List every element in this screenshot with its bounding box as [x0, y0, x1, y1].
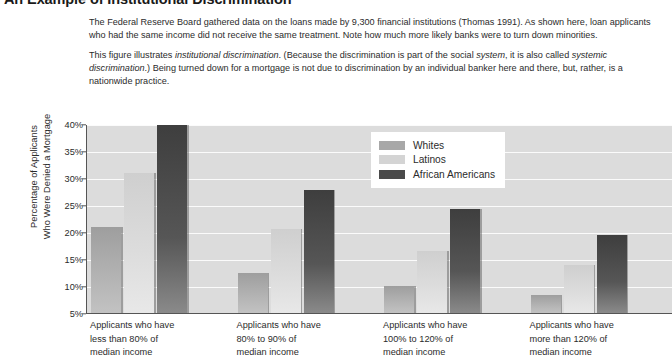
bar — [238, 273, 268, 314]
caption-text: .) Being turned down for a mortgage is n… — [89, 63, 623, 86]
bar — [91, 227, 121, 313]
x-axis-group-label: Applicants who haveless than 80% ofmedia… — [90, 319, 229, 360]
bar-chart: Percentage of ApplicantsWho Were Denied … — [0, 114, 672, 360]
bar-edge — [154, 173, 156, 313]
figure-caption: The Federal Reserve Board gathered data … — [89, 16, 667, 95]
legend-item: Whites — [379, 138, 495, 153]
figure-page: An Example of Institutional Discriminati… — [0, 0, 672, 360]
emphasized-term: institutional discrimination — [175, 50, 279, 60]
bar — [564, 265, 594, 313]
caption-text: The Federal Reserve Board gathered data … — [89, 17, 651, 40]
caption-paragraph: This figure illustrates institutional di… — [89, 49, 667, 88]
caption-text: This figure illustrates — [89, 50, 175, 60]
legend-label: Whites — [413, 140, 444, 151]
x-axis-group-label-line: more than 120% of — [530, 333, 669, 347]
caption-paragraph: The Federal Reserve Board gathered data … — [89, 16, 667, 42]
bar-edge — [187, 125, 189, 313]
bar — [450, 209, 480, 313]
caption-text: . (Because the discrimination is part of… — [279, 50, 477, 60]
title-divider — [0, 8, 672, 9]
bar-edge — [480, 209, 482, 313]
emphasized-term: system — [476, 50, 505, 60]
legend-label: African Americans — [413, 169, 495, 180]
y-axis-tick-label: 10% — [39, 282, 83, 292]
y-axis-tick-label: 35% — [39, 147, 83, 157]
x-axis-group-label: Applicants who have100% to 120% ofmedian… — [383, 319, 522, 360]
x-axis-group-label-line: Applicants who have — [383, 319, 522, 333]
legend-item: Latinos — [379, 153, 495, 168]
x-axis-group-label-line: Applicants who have — [237, 319, 376, 333]
legend-item: African Americans — [379, 167, 495, 182]
x-axis-group-label: Applicants who havemore than 120% ofmedi… — [530, 319, 669, 360]
bar — [597, 235, 627, 313]
x-axis-group-label-line: 80% to 90% of — [237, 333, 376, 347]
bar-edge — [334, 190, 336, 313]
x-axis-group-label: Applicants who have80% to 90% ofmedian i… — [237, 319, 376, 360]
bar — [417, 251, 447, 313]
legend-swatch — [379, 155, 405, 164]
bar — [384, 286, 414, 313]
y-axis-tick-label: 15% — [39, 255, 83, 265]
bar-edge — [627, 235, 629, 313]
x-axis-group-label-line: 100% to 120% of — [383, 333, 522, 347]
bar-edge — [121, 227, 123, 313]
x-axis-group-label-line: median income — [530, 346, 669, 360]
bar — [157, 125, 187, 313]
y-axis-tick-label: 40% — [39, 120, 83, 130]
bar — [271, 229, 301, 313]
y-axis-tick-label: 30% — [39, 174, 83, 184]
x-axis-group-label-line: median income — [237, 346, 376, 360]
bar-edge — [447, 251, 449, 313]
y-axis-tick-label: 25% — [39, 201, 83, 211]
legend-swatch — [379, 141, 405, 150]
bar — [304, 190, 334, 313]
caption-text: , it is also called — [505, 50, 572, 60]
x-axis-group-label-line: less than 80% of — [90, 333, 229, 347]
bar-edge — [414, 286, 416, 313]
y-axis-tick-label: 20% — [39, 228, 83, 238]
bar-edge — [268, 273, 270, 314]
bar-edge — [301, 229, 303, 313]
x-axis-group-label-line: median income — [90, 346, 229, 360]
x-axis-group-label-line: Applicants who have — [530, 319, 669, 333]
bar-edge — [561, 295, 563, 313]
page-title: An Example of Institutional Discriminati… — [4, 0, 291, 7]
bar-edge — [594, 265, 596, 313]
x-axis-group-label-line: median income — [383, 346, 522, 360]
bar — [531, 295, 561, 313]
legend-label: Latinos — [413, 154, 446, 165]
bar — [124, 173, 154, 313]
chart-legend: WhitesLatinosAfrican Americans — [371, 132, 505, 188]
x-axis-group-label-line: Applicants who have — [90, 319, 229, 333]
legend-swatch — [379, 170, 405, 179]
y-axis-tick-label: 5% — [39, 309, 83, 319]
